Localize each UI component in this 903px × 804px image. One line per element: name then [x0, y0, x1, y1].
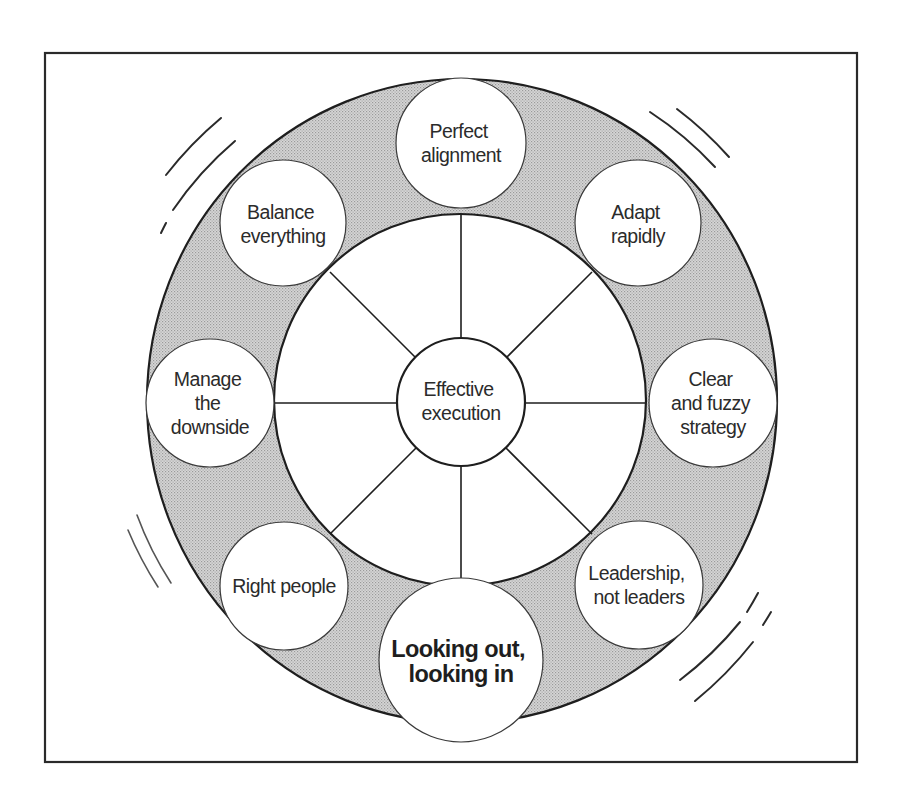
node-label-line: rapidly	[611, 225, 666, 247]
node-adapt-rapidly: Adapt rapidly	[575, 160, 701, 286]
node-clear-and-fuzzy-strategy: Clear and fuzzy strategy	[649, 339, 777, 467]
node-label-line: everything	[241, 225, 326, 247]
node-label-line: and fuzzy	[671, 392, 751, 414]
node-circle	[575, 160, 701, 286]
execution-wheel-diagram: Effective execution Perfect alignment Ad…	[0, 0, 903, 804]
node-label: Right people	[232, 575, 336, 597]
node-label-line: not leaders	[594, 586, 686, 608]
node-label-line: Manage	[174, 368, 241, 390]
hub-node: Effective execution	[397, 338, 525, 466]
node-balance-everything: Balance everything	[220, 160, 346, 286]
node-label: Looking out, looking in	[391, 636, 531, 687]
node-label-line: Leadership,	[588, 562, 684, 584]
node-looking-out-looking-in: Looking out, looking in	[379, 578, 543, 742]
node-label-line: Clear	[688, 368, 733, 390]
node-leadership-not-leaders: Leadership, not leaders	[575, 521, 703, 649]
node-circle	[220, 160, 346, 286]
node-label-line: strategy	[680, 416, 746, 438]
node-label-line: Right people	[232, 575, 336, 597]
node-label-line: Balance	[247, 201, 314, 223]
hub-label-line-1: Effective	[424, 378, 494, 400]
node-manage-the-downside: Manage the downside	[146, 339, 274, 467]
node-label-line: alignment	[421, 144, 502, 166]
node-circle	[575, 521, 703, 649]
node-label-line: downside	[171, 416, 249, 438]
node-right-people: Right people	[220, 522, 348, 650]
node-label-line: the	[195, 392, 221, 414]
node-circle	[396, 78, 526, 208]
node-label-line: looking in	[409, 661, 514, 687]
node-perfect-alignment: Perfect alignment	[396, 78, 526, 208]
node-label-line: Perfect	[429, 120, 488, 142]
node-label-line: Adapt	[611, 201, 661, 223]
node-label-line: Looking out,	[391, 636, 525, 662]
hub-label-line-2: execution	[422, 402, 501, 424]
